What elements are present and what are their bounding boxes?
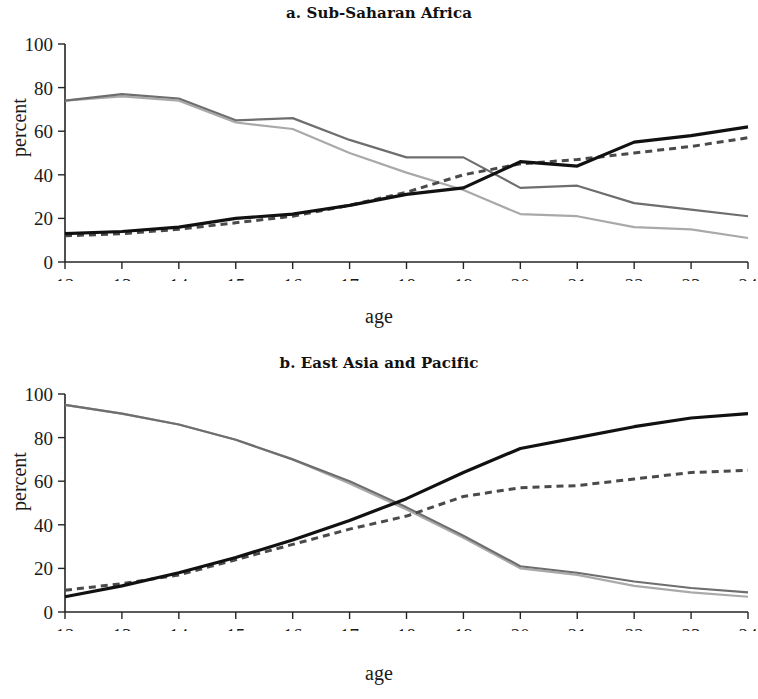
panel-b-x-tick-label: 18 — [397, 625, 416, 631]
chart-panel-a: a. Sub-Saharan Africa 020406080100121314… — [0, 0, 758, 349]
panel-b-series-falling-light-gray — [65, 405, 748, 597]
panel-b-x-tick-label: 15 — [226, 625, 245, 631]
panel-b-y-tick-label: 80 — [34, 428, 53, 449]
panel-a-x-tick-label: 21 — [568, 275, 587, 281]
panel-a-y-tick-label: 0 — [44, 252, 54, 273]
panel-b-x-tick-label: 16 — [283, 625, 302, 631]
panel-a-x-tick-label: 12 — [56, 275, 75, 281]
panel-b-y-tick-label: 100 — [25, 384, 54, 405]
panel-a-y-tick-label: 20 — [34, 208, 53, 229]
panel-a-series-falling-light-gray — [65, 96, 748, 238]
panel-b-y-tick-label: 60 — [34, 471, 53, 492]
panel-b-x-tick-label: 20 — [511, 625, 530, 631]
panel-b-x-tick-label: 23 — [682, 625, 701, 631]
panel-b-x-tick-label: 24 — [739, 625, 758, 631]
panel-b-x-tick-label: 13 — [112, 625, 131, 631]
panel-a-y-tick-label: 60 — [34, 121, 53, 142]
chart-panel-b: b. East Asia and Pacific 020406080100121… — [0, 350, 758, 699]
panel-b-svg: 02040608010012131415161718192021222324 — [0, 376, 758, 631]
panel-a-x-tick-label: 18 — [397, 275, 416, 281]
panel-b-plot-area: 02040608010012131415161718192021222324 — [0, 376, 758, 631]
panel-a-x-tick-label: 19 — [454, 275, 473, 281]
panel-a-series-male-rising-solid-black — [65, 127, 748, 234]
figure-two-line-charts: a. Sub-Saharan Africa 020406080100121314… — [0, 0, 758, 699]
panel-a-title: a. Sub-Saharan Africa — [0, 4, 758, 22]
panel-a-x-tick-label: 17 — [340, 275, 359, 281]
panel-a-series-rising-dashed-dark-gray — [65, 138, 748, 236]
panel-a-x-tick-label: 15 — [226, 275, 245, 281]
panel-b-x-tick-label: 12 — [56, 625, 75, 631]
panel-a-x-tick-label: 22 — [625, 275, 644, 281]
panel-a-x-tick-label: 24 — [739, 275, 758, 281]
panel-a-plot-area: 02040608010012131415161718192021222324 — [0, 26, 758, 281]
panel-b-x-tick-label: 21 — [568, 625, 587, 631]
panel-b-y-tick-label: 0 — [44, 602, 54, 623]
panel-b-series-rising-dashed-dark-gray — [65, 470, 748, 590]
panel-b-title: b. East Asia and Pacific — [0, 354, 758, 372]
panel-a-x-tick-label: 14 — [169, 275, 189, 281]
panel-b-y-axis-label: percent — [8, 427, 31, 537]
panel-a-x-tick-label: 23 — [682, 275, 701, 281]
panel-a-x-tick-label: 13 — [112, 275, 131, 281]
panel-b-x-tick-label: 14 — [169, 625, 189, 631]
panel-a-x-tick-label: 20 — [511, 275, 530, 281]
panel-a-y-axis-label: percent — [8, 73, 31, 183]
panel-a-x-tick-label: 16 — [283, 275, 302, 281]
panel-b-series-rising-solid-black — [65, 414, 748, 597]
panel-a-y-tick-label: 80 — [34, 78, 53, 99]
panel-b-x-tick-label: 17 — [340, 625, 359, 631]
panel-a-series-falling-medium-gray — [65, 94, 748, 216]
panel-b-x-tick-label: 19 — [454, 625, 473, 631]
panel-b-x-axis-label: age — [0, 662, 758, 685]
panel-b-y-tick-label: 40 — [34, 515, 53, 536]
panel-a-svg: 02040608010012131415161718192021222324 — [0, 26, 758, 281]
panel-a-y-tick-label: 100 — [25, 34, 54, 55]
panel-a-x-axis-label: age — [0, 305, 758, 328]
panel-a-y-tick-label: 40 — [34, 165, 53, 186]
panel-b-y-tick-label: 20 — [34, 558, 53, 579]
panel-b-x-tick-label: 22 — [625, 625, 644, 631]
